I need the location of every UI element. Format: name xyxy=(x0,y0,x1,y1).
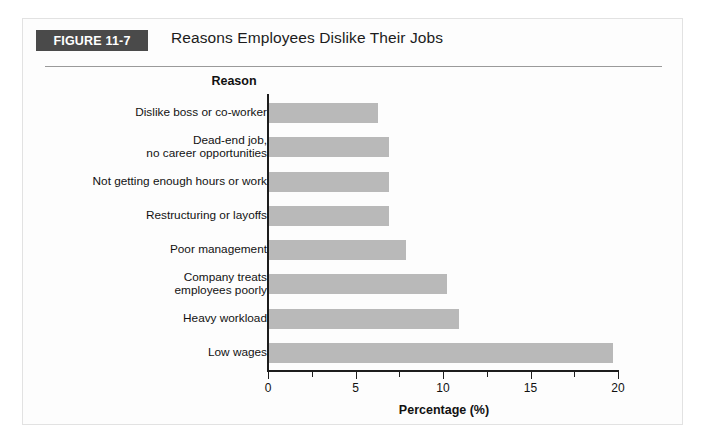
category-label: Company treats employees poorly xyxy=(27,271,267,298)
bar-row: Dead-end job, no career opportunities xyxy=(23,130,682,164)
bar-row: Poor management xyxy=(23,233,682,267)
x-axis-tick-label: 5 xyxy=(336,381,376,395)
figure-title: Reasons Employees Dislike Their Jobs xyxy=(171,29,443,47)
bar xyxy=(268,137,389,157)
bar-row: Restructuring or layoffs xyxy=(23,199,682,233)
bar xyxy=(268,274,447,294)
bar-row: Company treats employees poorly xyxy=(23,267,682,301)
y-axis-line xyxy=(267,94,269,371)
y-axis-title: Reason xyxy=(191,74,277,88)
x-axis-major-tick xyxy=(531,372,532,379)
bar-row: Heavy workload xyxy=(23,302,682,336)
bar xyxy=(268,172,389,192)
bar xyxy=(268,309,459,329)
x-axis-minor-tick xyxy=(312,372,313,377)
bar-rows: Dislike boss or co-workerDead-end job, n… xyxy=(23,96,682,370)
x-axis-minor-tick xyxy=(487,372,488,377)
x-axis-major-tick xyxy=(618,372,619,379)
chart-plot-area: Reason Dislike boss or co-workerDead-end… xyxy=(23,63,682,426)
x-axis-title: Percentage (%) xyxy=(268,403,620,417)
category-label: Dislike boss or co-worker xyxy=(27,106,267,120)
x-axis-tick-label: 15 xyxy=(511,381,551,395)
x-axis-major-tick xyxy=(356,372,357,379)
bar xyxy=(268,240,406,260)
x-axis-major-tick xyxy=(443,372,444,379)
bar-row: Low wages xyxy=(23,336,682,370)
x-axis-minor-tick xyxy=(574,372,575,377)
bar-row: Dislike boss or co-worker xyxy=(23,96,682,130)
bar xyxy=(268,343,613,363)
x-axis-major-tick xyxy=(268,372,269,379)
x-axis-minor-tick xyxy=(399,372,400,377)
x-axis-tick-label: 0 xyxy=(248,381,288,395)
figure-header: FIGURE 11-7 Reasons Employees Dislike Th… xyxy=(23,19,682,63)
x-axis-tick-label: 20 xyxy=(598,381,638,395)
figure-number-badge: FIGURE 11-7 xyxy=(36,30,148,51)
category-label: Restructuring or layoffs xyxy=(27,209,267,223)
bar-row: Not getting enough hours or work xyxy=(23,165,682,199)
category-label: Not getting enough hours or work xyxy=(27,175,267,189)
x-axis-tick-label: 10 xyxy=(423,381,463,395)
figure-card: FIGURE 11-7 Reasons Employees Dislike Th… xyxy=(22,18,683,425)
bar xyxy=(268,103,378,123)
category-label: Poor management xyxy=(27,243,267,257)
category-label: Dead-end job, no career opportunities xyxy=(27,134,267,161)
category-label: Heavy workload xyxy=(27,312,267,326)
category-label: Low wages xyxy=(27,346,267,360)
bar xyxy=(268,206,389,226)
